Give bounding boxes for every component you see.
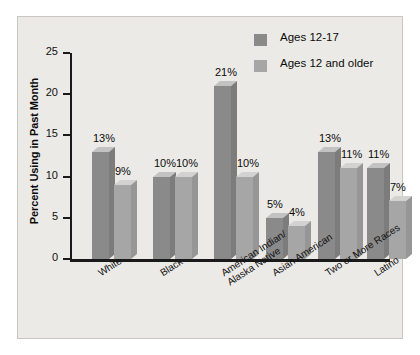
bar-value-label: 7% <box>390 181 406 193</box>
y-axis-tick <box>63 52 70 54</box>
bar-value-label: 21% <box>215 66 237 78</box>
y-axis-tick <box>63 217 70 219</box>
bar-front-face <box>92 152 109 259</box>
bar-value-label: 11% <box>368 148 389 160</box>
bar-front-face <box>175 177 192 259</box>
bar-side-face <box>192 172 198 259</box>
bar-side-face <box>131 180 137 259</box>
y-axis-tick <box>63 93 70 95</box>
bar-value-label: 11% <box>341 148 362 160</box>
bar-0 <box>92 147 115 259</box>
legend-swatch <box>254 60 267 72</box>
y-axis-tick <box>63 258 70 260</box>
bar-value-label: 13% <box>319 132 341 144</box>
bar-0 <box>214 81 237 259</box>
bar-value-label: 10% <box>154 157 176 169</box>
legend-label: Ages 12-17 <box>280 31 339 43</box>
legend-swatch <box>254 34 267 46</box>
bar-front-face <box>236 177 253 259</box>
y-axis-tick-label: 0 <box>32 251 58 263</box>
y-axis-line <box>70 53 72 260</box>
bar-value-label: 4% <box>289 206 305 218</box>
chart-plot-area: 0510152025 Percent Using in Past Month 1… <box>18 17 404 340</box>
bar-value-label: 10% <box>176 157 198 169</box>
bar-1 <box>114 180 137 259</box>
bar-front-face <box>153 177 170 259</box>
bar-front-face <box>214 86 231 259</box>
y-axis-tick <box>63 134 70 136</box>
bar-0 <box>153 172 176 259</box>
y-axis-tick-label: 25 <box>32 45 58 57</box>
bar-front-face <box>340 168 357 259</box>
chart-figure: 0510152025 Percent Using in Past Month 1… <box>17 16 403 339</box>
bar-value-label: 13% <box>93 132 115 144</box>
bar-front-face <box>114 185 131 259</box>
y-axis-label: Percent Using in Past Month <box>28 66 40 236</box>
legend-label: Ages 12 and older <box>280 57 373 69</box>
bar-value-label: 5% <box>267 198 283 210</box>
y-axis-tick <box>63 176 70 178</box>
bar-value-label: 10% <box>237 157 259 169</box>
bar-side-face <box>406 196 412 259</box>
bar-value-label: 9% <box>115 165 131 177</box>
bar-1 <box>175 172 198 259</box>
